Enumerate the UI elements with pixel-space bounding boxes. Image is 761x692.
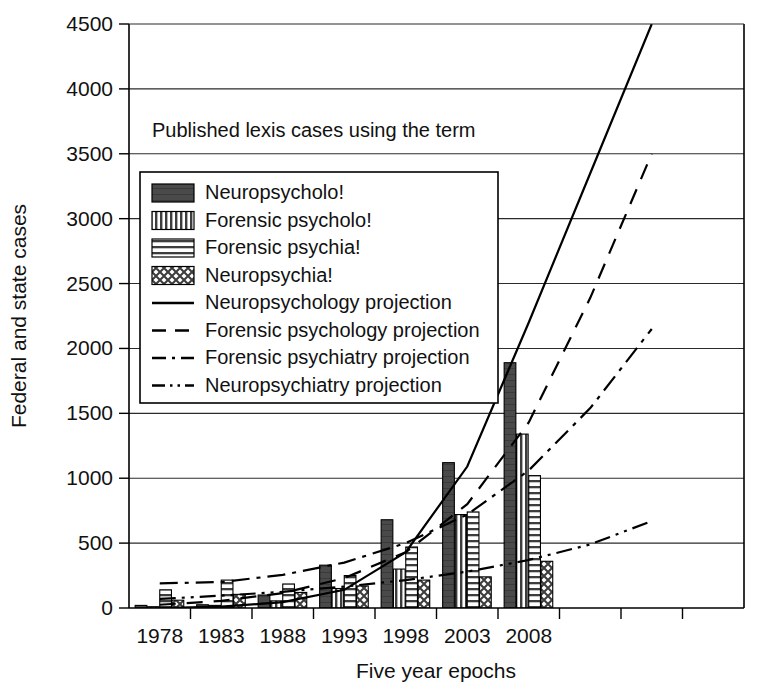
- bar-2008-series-0: [504, 363, 516, 608]
- x-tick-label: 2008: [505, 624, 552, 647]
- bar-2008-series-1: [516, 434, 528, 608]
- y-tick-label: 2000: [66, 336, 113, 359]
- legend-label-7: Neuropsychiatry projection: [205, 374, 442, 396]
- bar-1998-series-2: [406, 547, 418, 608]
- legend-label-1: Forensic psycholo!: [205, 209, 372, 231]
- y-axis-title: Federal and state cases: [7, 204, 30, 428]
- y-tick-label: 4000: [66, 77, 113, 100]
- bar-1988-series-0: [258, 595, 270, 608]
- lexis-cases-bar-chart: 050010001500200025003000350040004500 197…: [0, 0, 761, 692]
- x-tick-label: 1993: [321, 624, 368, 647]
- legend-border: [140, 172, 498, 403]
- x-axis-title: Five year epochs: [356, 659, 516, 682]
- x-tick-label: 1978: [136, 624, 183, 647]
- bar-2003-series-2: [467, 512, 479, 608]
- bar-1993-series-2: [344, 576, 356, 608]
- x-tick-label: 1988: [259, 624, 306, 647]
- x-tick-label: 1998: [382, 624, 429, 647]
- bar-2003-series-3: [480, 577, 492, 608]
- y-tick-label: 4500: [66, 12, 113, 35]
- x-tick-label: 1983: [198, 624, 245, 647]
- legend-label-4: Neuropsychology projection: [205, 291, 452, 313]
- bar-2003-series-0: [443, 463, 455, 608]
- chart-container: 050010001500200025003000350040004500 197…: [0, 0, 761, 692]
- y-tick-label: 2500: [66, 272, 113, 295]
- x-tick-label: 2003: [444, 624, 491, 647]
- y-tick-label: 3000: [66, 207, 113, 230]
- legend-swatch-2: [152, 239, 194, 257]
- legend-label-0: Neuropsycholo!: [205, 181, 344, 203]
- legend-swatch-1: [152, 212, 194, 230]
- y-tick-label: 1000: [66, 466, 113, 489]
- legend-swatch-3: [152, 267, 194, 285]
- bar-1993-series-3: [357, 586, 369, 608]
- y-tick-label: 500: [78, 531, 113, 554]
- y-tick-label: 1500: [66, 401, 113, 424]
- chart-title: Published lexis cases using the term: [152, 119, 476, 141]
- bar-1998-series-1: [393, 569, 405, 608]
- bar-1993-series-0: [320, 565, 332, 608]
- bar-2003-series-1: [455, 515, 467, 608]
- legend-label-5: Forensic psychology projection: [205, 319, 480, 341]
- y-tick-label: 0: [101, 596, 113, 619]
- legend-swatch-0: [152, 184, 194, 202]
- bar-2008-series-2: [529, 476, 541, 608]
- bar-2008-series-3: [541, 561, 553, 608]
- legend-label-6: Forensic psychiatry projection: [205, 346, 470, 368]
- y-tick-label: 3500: [66, 142, 113, 165]
- bar-1988-series-2: [283, 584, 295, 608]
- legend-label-2: Forensic psychia!: [205, 236, 361, 258]
- bar-1998-series-3: [418, 580, 430, 608]
- legend-label-3: Neuropsychia!: [205, 264, 333, 286]
- chart-legend: Neuropsycholo!Forensic psycholo!Forensic…: [140, 172, 498, 403]
